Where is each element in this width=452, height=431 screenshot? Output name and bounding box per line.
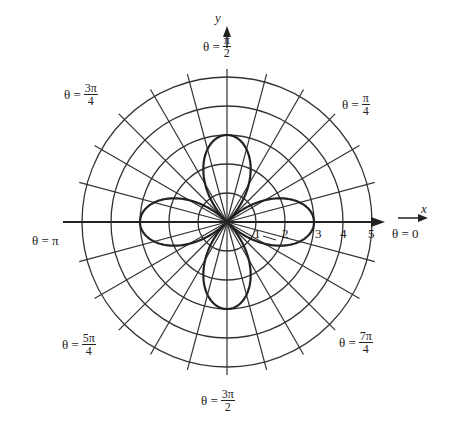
angle-label-pi-over-4: θ =π4 — [342, 92, 370, 117]
angle-label-pi: θ = π — [32, 233, 59, 249]
angle-label-pi-over-2: θ =π2 — [203, 34, 231, 59]
radial-tick-4: 4 — [340, 226, 347, 242]
angle-label-3pi-over-4: θ =3π4 — [64, 82, 98, 107]
angle-label-5pi-over-4: θ =5π4 — [62, 332, 96, 357]
x-axis-label: x — [421, 201, 427, 217]
y-axis-label: y — [215, 10, 221, 26]
radial-tick-3: 3 — [315, 226, 322, 242]
angle-label-0: θ = 0 — [392, 226, 419, 242]
polar-plot — [0, 0, 452, 431]
radial-tick-2: 2 — [282, 226, 289, 242]
angle-label-7pi-over-4: θ =7π4 — [339, 330, 373, 355]
radial-tick-1: 1 — [254, 226, 261, 242]
angle-label-3pi-over-2: θ =3π2 — [201, 388, 235, 413]
radial-tick-5: 5 — [368, 226, 375, 242]
